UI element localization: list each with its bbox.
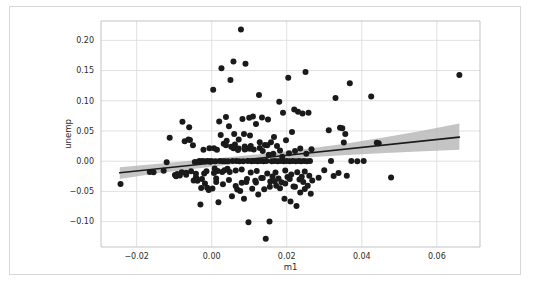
scatter-point [388, 174, 394, 180]
scatter-point [242, 61, 248, 67]
scatter-point [239, 180, 245, 186]
scatter-point [263, 236, 269, 242]
scatter-point [190, 142, 196, 148]
scatter-point [261, 186, 267, 192]
scatter-point [302, 186, 308, 192]
scatter-point [339, 125, 345, 131]
scatter-point [227, 77, 233, 83]
scatter-point [230, 145, 236, 151]
y-tick-label: 0.10 [76, 97, 94, 106]
scatter-point [277, 185, 283, 191]
scatter-point [183, 172, 189, 178]
scatter-point [354, 158, 360, 164]
scatter-point [308, 191, 314, 197]
x-tick-label: 0.02 [278, 252, 296, 261]
y-axis-title: unemp [63, 119, 73, 149]
x-tick-label: 0.04 [353, 252, 371, 261]
scatter-point [336, 170, 342, 176]
scatter-point [264, 171, 270, 177]
scatter-point [368, 93, 374, 99]
scatter-point [344, 173, 350, 179]
scatter-point [294, 169, 300, 175]
scatter-point [229, 193, 235, 199]
scatter-point [287, 176, 293, 182]
scatter-point [218, 132, 224, 138]
scatter-point [253, 179, 259, 185]
scatter-point [299, 174, 305, 180]
y-tick-label: −0.10 [69, 217, 94, 226]
scatter-point [193, 171, 199, 177]
scatter-point [297, 145, 303, 151]
x-tick-label: −0.02 [124, 252, 149, 261]
scatter-point [233, 167, 239, 173]
scatter-point [197, 202, 203, 208]
scatter-point [244, 176, 250, 182]
scatter-point [267, 184, 273, 190]
scatter-point [285, 75, 291, 81]
scatter-point [220, 181, 226, 187]
scatter-point [238, 26, 244, 32]
scatter-point [226, 123, 232, 129]
scatter-point [186, 124, 192, 130]
scatter-point [215, 199, 221, 205]
scatter-point [260, 175, 266, 181]
scatter-point [280, 110, 286, 116]
scatter-point [218, 65, 224, 71]
scatter-point [211, 145, 217, 151]
scatter-point [341, 139, 347, 145]
scatter-point [302, 169, 308, 175]
y-tick-label: 0.05 [76, 127, 94, 136]
scatter-point [187, 137, 193, 143]
scatter-point [456, 72, 462, 78]
scatter-point [249, 186, 255, 192]
figure-container: −0.10−0.050.000.050.100.150.20−0.020.000… [0, 0, 545, 289]
scatter-point [209, 186, 215, 192]
scatter-point [292, 184, 298, 190]
x-tick-label: 0.06 [428, 252, 446, 261]
y-tick-label: −0.05 [69, 187, 94, 196]
scatter-point [254, 168, 260, 174]
scatter-point [342, 131, 348, 137]
x-tick-label: 0.00 [203, 252, 221, 261]
y-tick-label: 0.00 [76, 157, 94, 166]
scatter-point [265, 117, 271, 123]
scatter-point [333, 95, 339, 101]
scatter-point [255, 192, 261, 198]
scatter-point [271, 134, 277, 140]
scatter-point [248, 143, 254, 149]
scatter-point [263, 158, 269, 164]
scatter-point [306, 110, 312, 116]
scatter-point [347, 80, 353, 86]
scatter-point [328, 158, 334, 164]
scatter-point [300, 110, 306, 116]
y-tick-label: 0.15 [76, 66, 94, 75]
scatter-point [179, 119, 185, 125]
scatter-point [281, 196, 287, 202]
scatter-point [272, 178, 278, 184]
scatter-point [233, 183, 239, 189]
scatter-point [227, 169, 233, 175]
scatter-point [309, 146, 315, 152]
scatter-point [239, 116, 245, 122]
scatter-point [253, 121, 259, 127]
scatter-point [245, 219, 251, 225]
scatter-point [200, 147, 206, 153]
y-tick-label: 0.20 [76, 36, 94, 45]
scatter-point [277, 147, 283, 153]
scatter-point [223, 142, 229, 148]
scatter-point [164, 159, 170, 165]
scatter-point [276, 99, 282, 105]
scatter-point [223, 114, 229, 120]
scatter-point [257, 145, 263, 151]
scatter-point [226, 177, 232, 183]
scatter-point [230, 59, 236, 65]
scatter-point [264, 142, 270, 148]
scatter-point [288, 198, 294, 204]
scatter-point [266, 219, 272, 225]
scatter-point [348, 158, 354, 164]
scatter-point [247, 133, 253, 139]
scatter-point [239, 167, 245, 173]
scatter-point [216, 119, 222, 125]
scatter-point [236, 146, 242, 152]
scatter-point [256, 92, 262, 98]
